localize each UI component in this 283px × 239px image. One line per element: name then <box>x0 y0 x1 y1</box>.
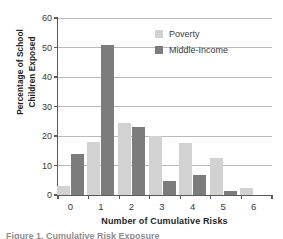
bar-poverty-2 <box>118 123 131 195</box>
y-axis-tick-label: 60 <box>42 13 52 23</box>
y-axis-tick-label: 30 <box>42 102 52 112</box>
bar-middle-income-0 <box>71 154 84 195</box>
y-axis-title: Percentage of School Children Exposed <box>15 0 41 152</box>
x-axis-tick-mark <box>57 195 58 199</box>
bar-poverty-6 <box>240 188 253 195</box>
bar-poverty-1 <box>87 142 100 195</box>
y-axis-tick-mark <box>54 17 58 18</box>
x-axis-tick-mark <box>88 195 89 199</box>
y-axis-tick-mark <box>54 165 58 166</box>
bar-middle-income-2 <box>132 127 145 195</box>
legend-item-middle-income: Middle-Income <box>155 43 228 56</box>
x-axis-tick-label: 5 <box>220 201 225 212</box>
x-axis-tick-label: 4 <box>190 201 195 212</box>
x-axis-tick-mark <box>210 195 211 199</box>
bar-poverty-3 <box>149 136 162 195</box>
chart-legend: Poverty Middle-Income <box>155 27 228 59</box>
bar-poverty-4 <box>179 143 192 195</box>
bar-middle-income-3 <box>163 181 176 195</box>
x-axis-tick-label: 0 <box>68 201 73 212</box>
gridline <box>58 136 272 137</box>
gridline <box>58 106 272 107</box>
x-axis-tick-label: 1 <box>98 201 103 212</box>
y-axis-tick-mark <box>54 76 58 77</box>
bar-poverty-5 <box>210 158 223 195</box>
y-axis-tick-label: 50 <box>42 43 52 53</box>
gridline <box>58 18 272 19</box>
legend-item-poverty: Poverty <box>155 27 228 40</box>
legend-label-middle-income: Middle-Income <box>169 45 228 55</box>
y-axis-title-line-2: Children Exposed <box>27 0 39 152</box>
x-axis-tick-mark <box>241 195 242 199</box>
y-axis-tick-label: 20 <box>42 131 52 141</box>
x-axis-tick-mark <box>180 195 181 199</box>
legend-swatch-poverty-icon <box>155 30 163 38</box>
bar-poverty-0 <box>57 186 70 195</box>
bar-middle-income-4 <box>193 175 206 195</box>
x-axis-tick-label: 6 <box>251 201 256 212</box>
y-axis-tick-mark <box>54 135 58 136</box>
figure-bar-chart: Percentage of School Children Exposed 01… <box>0 0 283 239</box>
x-axis-tick-mark <box>119 195 120 199</box>
x-axis-tick-mark <box>149 195 150 199</box>
x-axis-tick-label: 2 <box>129 201 134 212</box>
x-axis-title: Number of Cumulative Risks <box>57 216 272 226</box>
y-axis-tick-mark <box>54 106 58 107</box>
gridline <box>58 77 272 78</box>
bar-middle-income-5 <box>224 191 237 195</box>
y-axis-title-line-1: Percentage of School <box>15 0 27 152</box>
figure-caption: Figure 1. Cumulative Risk Exposure <box>6 231 283 239</box>
x-axis-tick-label: 3 <box>159 201 164 212</box>
y-axis-tick-label: 0 <box>47 190 52 200</box>
x-axis-tick-mark <box>271 195 272 199</box>
bar-middle-income-1 <box>101 45 114 195</box>
y-axis-tick-label: 10 <box>42 161 52 171</box>
y-axis-tick-mark <box>54 47 58 48</box>
legend-swatch-middle-income-icon <box>155 46 163 54</box>
legend-label-poverty: Poverty <box>169 29 200 39</box>
y-axis-tick-label: 40 <box>42 72 52 82</box>
